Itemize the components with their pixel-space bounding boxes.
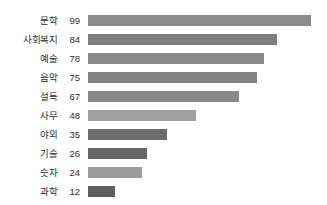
bar-track (88, 186, 327, 197)
bar-track (88, 34, 327, 45)
category-label: 기술 (0, 148, 58, 159)
bar-fill (88, 129, 167, 140)
category-label: 사무 (0, 110, 58, 121)
bar-fill (88, 72, 257, 83)
value-label: 24 (58, 167, 80, 178)
value-label: 12 (58, 186, 80, 197)
bar-track (88, 148, 327, 159)
value-label: 67 (58, 91, 80, 102)
bar-chart-rows: 문학99사회복지84예술78음악75설득67사무48야외35기술26숫자24과학… (0, 11, 327, 201)
bar-row: 과학12 (0, 182, 327, 201)
horizontal-bar-chart: 문학99사회복지84예술78음악75설득67사무48야외35기술26숫자24과학… (0, 0, 327, 205)
value-label: 84 (58, 34, 80, 45)
bar-fill (88, 186, 115, 197)
bar-fill (88, 15, 311, 26)
category-label: 설득 (0, 91, 58, 102)
value-label: 78 (58, 53, 80, 64)
value-label: 99 (58, 15, 80, 26)
value-label: 48 (58, 110, 80, 121)
bar-fill (88, 91, 239, 102)
bar-track (88, 167, 327, 178)
bar-fill (88, 53, 264, 64)
bar-row: 음악75 (0, 68, 327, 87)
category-label: 음악 (0, 72, 58, 83)
bar-fill (88, 148, 147, 159)
bar-row: 문학99 (0, 11, 327, 30)
bar-track (88, 91, 327, 102)
category-label: 과학 (0, 186, 58, 197)
bar-track (88, 53, 327, 64)
bar-track (88, 110, 327, 121)
bar-row: 사무48 (0, 106, 327, 125)
bar-row: 기술26 (0, 144, 327, 163)
value-label: 26 (58, 148, 80, 159)
value-label: 75 (58, 72, 80, 83)
bar-row: 사회복지84 (0, 30, 327, 49)
bar-fill (88, 34, 277, 45)
bar-row: 야외35 (0, 125, 327, 144)
category-label: 문학 (0, 15, 58, 26)
value-label: 35 (58, 129, 80, 140)
bar-fill (88, 110, 196, 121)
bar-row: 설득67 (0, 87, 327, 106)
category-label: 숫자 (0, 167, 58, 178)
bar-track (88, 72, 327, 83)
bar-row: 예술78 (0, 49, 327, 68)
bar-fill (88, 167, 142, 178)
bar-track (88, 15, 327, 26)
bar-track (88, 129, 327, 140)
category-label: 야외 (0, 129, 58, 140)
category-label: 예술 (0, 53, 58, 64)
bar-row: 숫자24 (0, 163, 327, 182)
category-label: 사회복지 (0, 34, 58, 45)
